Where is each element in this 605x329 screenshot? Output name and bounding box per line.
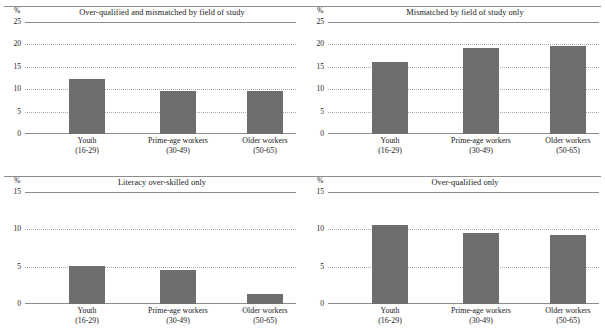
plot-area: 0510152025	[328, 22, 599, 134]
x-axis-category-label: Youth(16-29)	[345, 136, 435, 157]
category-age-range: (50-65)	[220, 146, 310, 156]
x-axis-category-label: Prime-age workers(30-49)	[133, 136, 223, 157]
category-name: Older workers	[545, 306, 590, 315]
category-age-range: (16-29)	[42, 146, 132, 156]
x-axis-category-label: Youth(16-29)	[345, 306, 435, 327]
x-axis-category-label: Prime-age workers(30-49)	[133, 306, 223, 327]
category-age-range: (50-65)	[523, 146, 605, 156]
gridline	[25, 229, 296, 230]
y-axis-unit-label: %	[14, 6, 20, 15]
bar	[463, 48, 499, 134]
y-axis-tick-label: 15	[316, 63, 324, 71]
x-axis-category-label: Prime-age workers(30-49)	[436, 306, 526, 327]
chart-title: Mismatched by field of study only	[331, 8, 599, 17]
chart-title: Over-qualified and mismatched by field o…	[28, 8, 296, 17]
category-name: Older workers	[242, 136, 287, 145]
gridline	[25, 44, 296, 45]
x-axis-labels: Youth(16-29)Prime-age workers(30-49)Olde…	[25, 136, 296, 160]
category-age-range: (50-65)	[220, 316, 310, 326]
category-age-range: (16-29)	[42, 316, 132, 326]
y-axis-tick-label: 15	[13, 63, 21, 71]
plot-area: 051015	[25, 192, 296, 304]
y-axis-unit-label: %	[317, 176, 323, 185]
y-axis-tick-label: 5	[17, 263, 21, 271]
category-name: Prime-age workers	[148, 306, 208, 315]
category-age-range: (16-29)	[345, 146, 435, 156]
bar	[247, 294, 283, 304]
chart-title: Over-qualified only	[331, 178, 599, 187]
axis-top-rule	[328, 22, 599, 23]
category-name: Older workers	[242, 306, 287, 315]
x-axis-category-label: Youth(16-29)	[42, 136, 132, 157]
category-age-range: (30-49)	[436, 316, 526, 326]
chart-panel-over-qualified-only: % Over-qualified only 051015 Youth(16-29…	[303, 176, 605, 329]
category-name: Youth	[381, 136, 400, 145]
y-axis-tick-label: 15	[13, 188, 21, 196]
y-axis-tick-label: 10	[13, 226, 21, 234]
x-axis-category-label: Older workers(50-65)	[220, 306, 310, 327]
y-axis-tick-label: 5	[320, 108, 324, 116]
y-axis-tick-label: 20	[316, 41, 324, 49]
x-axis-labels: Youth(16-29)Prime-age workers(30-49)Olde…	[328, 306, 599, 329]
y-axis-tick-label: 10	[316, 85, 324, 93]
gridline	[25, 67, 296, 68]
category-name: Prime-age workers	[148, 136, 208, 145]
y-axis-tick-label: 20	[13, 41, 21, 49]
gridline	[25, 267, 296, 268]
y-axis-tick-label: 0	[320, 300, 324, 308]
category-name: Prime-age workers	[451, 136, 511, 145]
category-age-range: (16-29)	[345, 316, 435, 326]
category-age-range: (30-49)	[133, 146, 223, 156]
axis-top-rule	[328, 192, 599, 193]
y-axis-tick-label: 5	[320, 263, 324, 271]
bar	[372, 225, 408, 304]
y-axis-tick-label: 0	[320, 130, 324, 138]
y-axis-unit-label: %	[14, 176, 20, 185]
y-axis-tick-label: 25	[13, 18, 21, 26]
y-axis-tick-label: 10	[316, 226, 324, 234]
chart-panel-literacy-over-skilled-only: % Literacy over-skilled only 051015 Yout…	[0, 176, 302, 329]
category-age-range: (30-49)	[436, 146, 526, 156]
gridline	[328, 229, 599, 230]
x-axis-category-label: Older workers(50-65)	[523, 136, 605, 157]
bar	[463, 233, 499, 304]
x-axis-category-label: Prime-age workers(30-49)	[436, 136, 526, 157]
category-name: Older workers	[545, 136, 590, 145]
bar	[550, 46, 586, 134]
x-axis-labels: Youth(16-29)Prime-age workers(30-49)Olde…	[328, 136, 599, 160]
category-name: Prime-age workers	[451, 306, 511, 315]
y-axis-tick-label: 10	[13, 85, 21, 93]
category-age-range: (50-65)	[523, 316, 605, 326]
bar	[160, 91, 196, 134]
y-axis-tick-label: 0	[17, 130, 21, 138]
x-axis-category-label: Older workers(50-65)	[220, 136, 310, 157]
y-axis-tick-label: 0	[17, 300, 21, 308]
bar	[372, 62, 408, 134]
category-name: Youth	[78, 136, 97, 145]
y-axis-tick-label: 5	[17, 108, 21, 116]
y-axis-unit-label: %	[317, 6, 323, 15]
bar	[550, 235, 586, 304]
plot-area: 051015	[328, 192, 599, 304]
chart-panel-mismatched-field-only: % Mismatched by field of study only 0510…	[303, 6, 605, 161]
chart-panel-over-qualified-and-mismatched: % Over-qualified and mismatched by field…	[0, 6, 302, 161]
bar	[69, 79, 105, 134]
bar	[247, 91, 283, 134]
category-age-range: (30-49)	[133, 316, 223, 326]
axis-top-rule	[25, 22, 296, 23]
bar	[160, 270, 196, 304]
chart-title: Literacy over-skilled only	[28, 178, 296, 187]
x-axis-labels: Youth(16-29)Prime-age workers(30-49)Olde…	[25, 306, 296, 329]
axis-top-rule	[25, 192, 296, 193]
y-axis-tick-label: 15	[316, 188, 324, 196]
x-axis-category-label: Older workers(50-65)	[523, 306, 605, 327]
y-axis-tick-label: 25	[316, 18, 324, 26]
bar	[69, 266, 105, 304]
plot-area: 0510152025	[25, 22, 296, 134]
x-axis-category-label: Youth(16-29)	[42, 306, 132, 327]
category-name: Youth	[78, 306, 97, 315]
category-name: Youth	[381, 306, 400, 315]
